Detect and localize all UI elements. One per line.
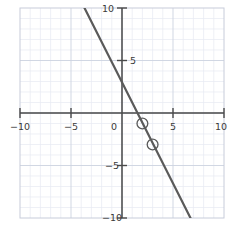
x-tick-label-5: 5 — [170, 121, 176, 132]
origin-label: 0 — [111, 121, 117, 132]
y-tick-label-neg5: −5 — [105, 160, 119, 171]
x-tick-label-neg10: −10 — [10, 121, 30, 132]
graph-canvas: −10 −5 5 10 0 10 5 −5 −10 — [0, 0, 236, 229]
y-tick-label-10: 10 — [102, 3, 114, 14]
y-tick-label-neg10: −10 — [102, 212, 122, 223]
x-tick-label-10: 10 — [215, 121, 227, 132]
y-tick-label-5: 5 — [130, 55, 136, 66]
coordinate-graph: −10 −5 5 10 0 10 5 −5 −10 — [0, 0, 236, 229]
x-tick-label-neg5: −5 — [64, 121, 78, 132]
